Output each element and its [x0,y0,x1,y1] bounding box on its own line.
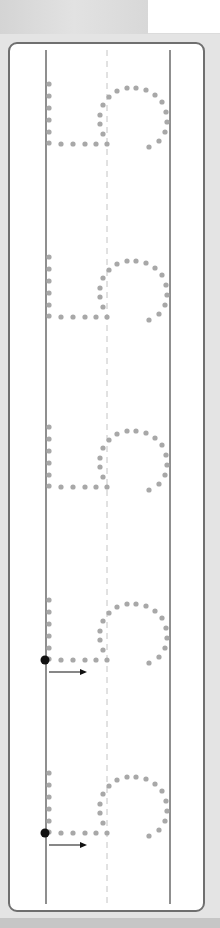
trace-dot [46,782,51,787]
trace-dot [46,436,51,441]
trace-dot [162,302,167,307]
trace-dot [58,830,63,835]
trace-dot [106,267,111,272]
trace-dot [46,794,51,799]
trace-dot [82,141,87,146]
trace-dot [46,483,51,488]
trace-dot [133,601,138,606]
digit-5-tracing-glyph [41,597,170,675]
trace-dot [46,254,51,259]
trace-dot [58,141,63,146]
trace-dot [46,770,51,775]
start-point-marker [41,656,50,665]
trace-dot [164,808,169,813]
trace-dot [124,601,129,606]
trace-dot [97,637,102,642]
trace-dot [93,141,98,146]
trace-dot [58,314,63,319]
start-point-marker [41,829,50,838]
trace-dot [163,452,168,457]
trace-dot [133,258,138,263]
trace-dot [159,99,164,104]
arrow-head-icon [80,669,87,675]
trace-dot [82,484,87,489]
trace-dot [159,442,164,447]
trace-dot [106,437,111,442]
trace-dot [93,314,98,319]
trace-dot [97,112,102,117]
trace-dot [46,93,51,98]
trace-dot [146,144,151,149]
trace-dot [97,285,102,290]
trace-dot [146,317,151,322]
trace-dot [46,290,51,295]
trace-dot [114,604,119,609]
trace-dot [82,657,87,662]
trace-dot [146,487,151,492]
trace-dot [124,428,129,433]
trace-dot [100,820,105,825]
trace-dot [70,830,75,835]
trace-dot [46,645,51,650]
trace-dot [164,292,169,297]
trace-dot [114,777,119,782]
trace-dot [162,472,167,477]
trace-dot [100,131,105,136]
trace-dot [100,791,105,796]
trace-dot [124,258,129,263]
trace-dot [114,88,119,93]
trace-dot [46,448,51,453]
trace-dot [97,121,102,126]
trace-dot [143,430,148,435]
trace-dot [93,657,98,662]
trace-dot [162,818,167,823]
trace-dot [159,615,164,620]
trace-dot [70,314,75,319]
trace-dot [163,282,168,287]
trace-dot [163,625,168,630]
trace-dot [156,827,161,832]
trace-dot [82,830,87,835]
trace-dot [133,428,138,433]
trace-dot [46,460,51,465]
trace-dot [93,830,98,835]
trace-dot [46,621,51,626]
trace-dot [124,85,129,90]
trace-dot [104,830,109,835]
trace-dot [46,278,51,283]
trace-dot [58,657,63,662]
trace-dot [46,117,51,122]
trace-dot [163,109,168,114]
trace-dot [156,654,161,659]
digit-5-tracing-glyph [46,81,169,149]
trace-dot [159,788,164,793]
trace-dot [100,102,105,107]
trace-dot [97,628,102,633]
trace-dot [106,94,111,99]
trace-dot [46,609,51,614]
trace-dot [93,484,98,489]
trace-dot [156,138,161,143]
trace-dot [46,266,51,271]
trace-dot [104,141,109,146]
trace-dot [114,431,119,436]
trace-dot [100,474,105,479]
trace-dot [82,314,87,319]
trace-dot [97,810,102,815]
trace-dot [146,660,151,665]
trace-dot [100,304,105,309]
trace-dot [97,455,102,460]
trace-dot [100,275,105,280]
trace-dot [152,265,157,270]
trace-dot [104,657,109,662]
trace-dot [97,801,102,806]
trace-dot [133,85,138,90]
arrow-head-icon [80,842,87,848]
trace-dot [143,603,148,608]
trace-dot [146,833,151,838]
trace-dot [46,81,51,86]
tracing-sheet [0,0,220,928]
trace-dot [97,464,102,469]
trace-dot [143,776,148,781]
trace-dot [143,260,148,265]
